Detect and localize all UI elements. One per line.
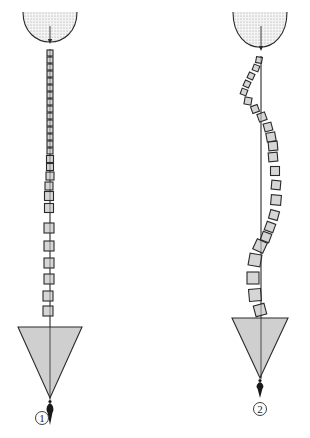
figure-label: 2 <box>257 403 263 415</box>
vertebra <box>247 72 255 80</box>
vertebra <box>44 258 54 268</box>
vertebra <box>268 152 278 162</box>
figure-1-aligned-spine: 1 <box>18 12 82 425</box>
vertebra <box>266 132 276 142</box>
vertebra <box>271 180 281 190</box>
vertebra <box>44 274 54 284</box>
vertebra <box>243 80 251 88</box>
vertebra <box>264 221 276 233</box>
vertebra <box>44 223 54 233</box>
vertebra <box>247 272 259 284</box>
vertebra <box>268 209 279 220</box>
vertebra <box>43 306 53 316</box>
pelvis-triangle <box>232 318 288 378</box>
vertebra <box>248 253 262 267</box>
vertebra <box>253 303 266 316</box>
spine-diagram: 1 2 <box>0 0 310 438</box>
vertebra <box>45 204 54 213</box>
vertebra <box>244 97 252 105</box>
vertebra <box>43 291 53 301</box>
vertebra <box>268 141 278 151</box>
vertebra <box>263 122 273 132</box>
plumb-bob-icon <box>257 382 264 398</box>
vertebra <box>44 241 54 251</box>
vertebra <box>248 288 261 301</box>
vertebra <box>45 182 53 190</box>
figure-2-curved-spine: 2 <box>232 12 288 416</box>
bob-knot <box>48 400 51 403</box>
head-bowl <box>233 12 287 47</box>
vertebra <box>257 112 267 122</box>
vertebra <box>251 105 260 114</box>
vertebra <box>240 88 248 96</box>
vertebra <box>252 64 260 72</box>
figure-label: 1 <box>39 412 45 424</box>
bob-knot <box>258 379 261 382</box>
arrow-head-icon <box>259 46 263 51</box>
vertebra <box>271 167 280 176</box>
vertebra <box>256 57 263 64</box>
vertebra <box>45 192 54 201</box>
vertebra <box>271 195 282 206</box>
